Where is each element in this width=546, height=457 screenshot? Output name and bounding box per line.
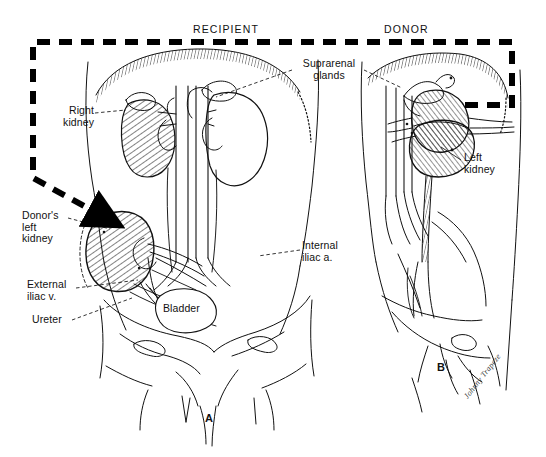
- donor-left-ureter: [422, 176, 432, 262]
- label-donors-left-kidney: Donor's left kidney: [22, 210, 59, 245]
- transplanted-donor-kidney: [80, 212, 156, 292]
- label-external-iliac-vein: External iliac v.: [27, 279, 66, 302]
- header-donor: DONOR: [384, 23, 429, 35]
- leader-right-kidney: [95, 110, 126, 113]
- header-recipient: RECIPIENT: [193, 23, 259, 35]
- label-left-kidney: Left kidney: [464, 152, 495, 175]
- label-bladder: Bladder: [163, 303, 200, 315]
- kidney-transplant-illustration: [0, 0, 546, 457]
- label-right-kidney: Right kidney: [36, 105, 94, 128]
- panel-label-b: B: [437, 361, 445, 373]
- recipient-native-ureters: [167, 168, 217, 272]
- donor-iliac-vessels: [398, 254, 434, 318]
- label-ureter: Ureter: [32, 314, 62, 326]
- label-internal-iliac-artery: Internal iliac a.: [302, 240, 338, 263]
- panel-label-a: A: [205, 412, 213, 424]
- label-suprarenal-glands: Suprarenal glands: [296, 58, 362, 81]
- leader-internal-iliac: [258, 250, 300, 256]
- recipient-left-native-kidney: [187, 88, 267, 186]
- recipient-midline-marks: [182, 396, 256, 424]
